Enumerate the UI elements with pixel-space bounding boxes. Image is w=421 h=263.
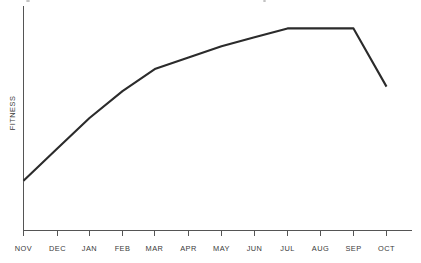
x-tick-label-oct: OCT (378, 244, 395, 253)
series-group (24, 28, 387, 180)
x-tick-label-sep: SEP (345, 244, 361, 253)
x-tick-label-jan: JAN (82, 244, 97, 253)
x-tick-label-jul: JUL (280, 244, 295, 253)
x-axis-tick-labels: NOV DEC JAN FEB MAR APR MAY JUN JUL AUG … (15, 244, 395, 253)
x-tick-label-dec: DEC (49, 244, 66, 253)
x-tick-label-mar: MAR (146, 244, 164, 253)
x-tick-label-may: MAY (213, 244, 230, 253)
x-tick-label-apr: APR (180, 244, 197, 253)
chart-canvas: NOV DEC JAN FEB MAR APR MAY JUN JUL AUG … (0, 0, 421, 263)
fitness-line-chart: NOV DEC JAN FEB MAR APR MAY JUN JUL AUG … (0, 0, 421, 263)
x-tick-label-nov: NOV (15, 244, 32, 253)
x-tick-label-aug: AUG (312, 244, 329, 253)
x-tick-label-jun: JUN (247, 244, 263, 253)
x-tick-label-feb: FEB (115, 244, 131, 253)
y-axis-title: FITNESS (8, 96, 17, 131)
y-axis-title-group: FITNESS (8, 96, 17, 131)
fitness-series-line (24, 28, 387, 180)
